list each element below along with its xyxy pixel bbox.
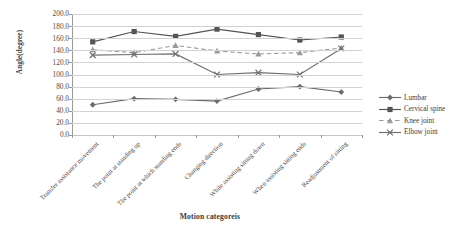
legend-item[interactable]: Lumbar [378, 92, 466, 104]
legend-marker-icon [378, 115, 402, 126]
legend-item[interactable]: Knee joint [378, 115, 466, 127]
legend-marker-icon [378, 92, 402, 103]
legend-label: Knee joint [402, 117, 434, 125]
legend-label: Elbow joint [402, 128, 438, 136]
x-tick-label: Changing direction [183, 140, 224, 181]
x-tick-label: Readjustment of sitting [300, 140, 348, 188]
legend-marker-icon [378, 104, 402, 115]
legend: LumbarCervical spineKnee jointElbow join… [378, 92, 466, 138]
legend-label: Lumbar [402, 94, 427, 102]
x-tick-label: Transfer assistance movement [38, 140, 99, 201]
x-axis-title: Motion categoreis [0, 212, 420, 221]
line-chart: Angle(degree) 0.020.040.060.080.0100.012… [0, 0, 467, 240]
legend-marker-icon [378, 127, 402, 138]
legend-item[interactable]: Elbow joint [378, 127, 466, 139]
legend-item[interactable]: Cervical spine [378, 104, 466, 116]
legend-label: Cervical spine [402, 105, 445, 113]
